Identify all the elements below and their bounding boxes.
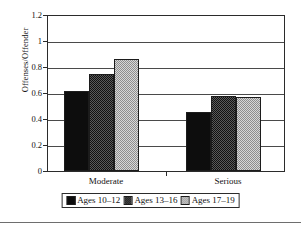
chart-legend: Ages 10–12 Ages 13–16 Ages 17–19: [61, 193, 240, 208]
x-axis-tick-mark-center: [166, 172, 167, 176]
legend-label-ages-17-19: Ages 17–19: [192, 196, 235, 205]
legend-swatch-icon-ages-17-19: [181, 196, 190, 205]
bar-chart-figure: Offenses/Offender 1.2 1 0.8 0.6 0.4 0.2 …: [0, 0, 301, 230]
legend-entry-ages-13-16[interactable]: Ages 13–16: [123, 196, 177, 205]
y-axis-tick-labels: 1.2 1 0.8 0.6 0.4 0.2 0: [18, 0, 42, 230]
bar-serious-ages-10-12: [186, 112, 211, 171]
y-tick-label-0.2: 0.2: [20, 141, 42, 150]
plot-area: [47, 15, 285, 172]
bar-moderate-ages-10-12: [64, 91, 89, 171]
legend-entry-ages-17-19[interactable]: Ages 17–19: [181, 196, 235, 205]
bar-moderate-ages-17-19: [114, 59, 139, 171]
bar-serious-ages-13-16: [211, 96, 236, 171]
y-tick-label-0.4: 0.4: [20, 115, 42, 124]
page-divider-rule: [0, 222, 301, 223]
y-tick-label-0.6: 0.6: [20, 89, 42, 98]
bar-moderate-ages-13-16: [89, 74, 114, 171]
y-tick-label-1.2: 1.2: [20, 11, 42, 20]
bars-layer: [48, 16, 284, 171]
legend-swatch-icon-ages-13-16: [123, 196, 132, 205]
y-tick-label-1: 1: [20, 37, 42, 46]
legend-entry-ages-10-12[interactable]: Ages 10–12: [66, 196, 120, 205]
x-axis-label-serious: Serious: [182, 176, 274, 186]
legend-swatch-icon-ages-10-12: [66, 196, 75, 205]
bar-serious-ages-17-19: [236, 97, 261, 171]
legend-label-ages-13-16: Ages 13–16: [134, 196, 177, 205]
y-tick-label-0.8: 0.8: [20, 63, 42, 72]
x-axis-label-moderate: Moderate: [60, 176, 152, 186]
y-tick-label-0: 0: [20, 167, 42, 176]
legend-label-ages-10-12: Ages 10–12: [77, 196, 120, 205]
